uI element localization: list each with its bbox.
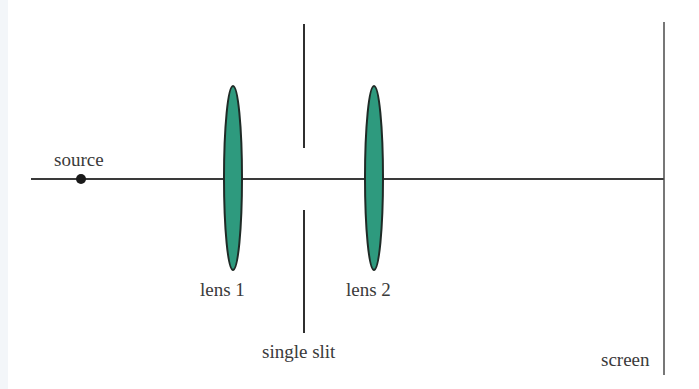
lens-1-label: lens 1 — [200, 280, 245, 299]
source-label: source — [54, 150, 104, 169]
lens-2-label: lens 2 — [346, 280, 391, 299]
screen-label: screen — [601, 350, 650, 369]
optics-diagram — [0, 0, 699, 389]
source-point-icon — [76, 174, 86, 184]
single-slit-label: single slit — [262, 342, 335, 361]
lens-1-icon — [224, 86, 242, 270]
lens-2-icon — [365, 86, 383, 270]
